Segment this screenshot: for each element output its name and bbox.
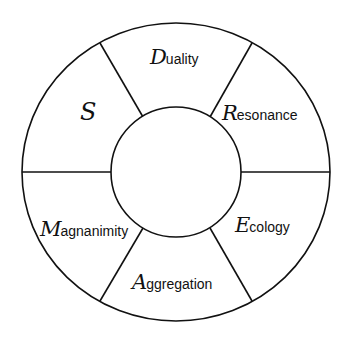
segment-text: agnanimity [61,223,129,239]
divider-lower-right [210,228,252,301]
segment-label-magnanimity: Magnanimity [40,219,128,240]
segment-initial: S [80,98,95,126]
segment-initial: E [235,213,249,237]
segment-text: esonance [237,107,298,123]
center-circle [111,107,241,237]
segment-text: uality [166,51,199,67]
segment-label-aggregation: Aggregation [132,272,212,293]
segment-initial: R [222,101,237,125]
segment-label-ecology: Ecology [235,215,290,236]
segment-label-duality: Duality [150,47,199,68]
segment-label-s: S [80,100,95,124]
segment-text: cology [249,219,289,235]
segment-initial: M [40,217,61,241]
segment-initial: A [132,270,146,294]
segment-initial: D [150,45,166,69]
segment-text: ggregation [146,276,212,292]
segment-label-resonance: Resonance [222,103,298,124]
divider-upper-left [100,43,143,117]
